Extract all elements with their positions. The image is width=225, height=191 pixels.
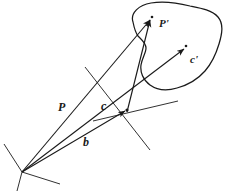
- label-vector-c: c: [101, 100, 106, 112]
- label-vector-b: b: [83, 136, 89, 148]
- origin-axis-right: [22, 172, 60, 184]
- image-plane-line-1: [85, 67, 150, 150]
- vector-projection-diagram: P c b P' c': [0, 0, 225, 191]
- vector-b-arrow: [22, 111, 125, 172]
- P-prime-point-dot: [151, 16, 154, 19]
- label-point-P-prime: P': [159, 18, 169, 29]
- image-plane-intersection-dot: [125, 108, 128, 111]
- diagram-canvas: [0, 0, 225, 191]
- origin-axis-upper-left: [4, 144, 22, 172]
- label-point-c-prime: c': [190, 54, 198, 65]
- label-vector-P: P: [58, 101, 65, 113]
- object-blob-outline: [132, 2, 221, 89]
- origin-axis-down: [17, 172, 22, 191]
- c-prime-point-dot: [185, 45, 188, 48]
